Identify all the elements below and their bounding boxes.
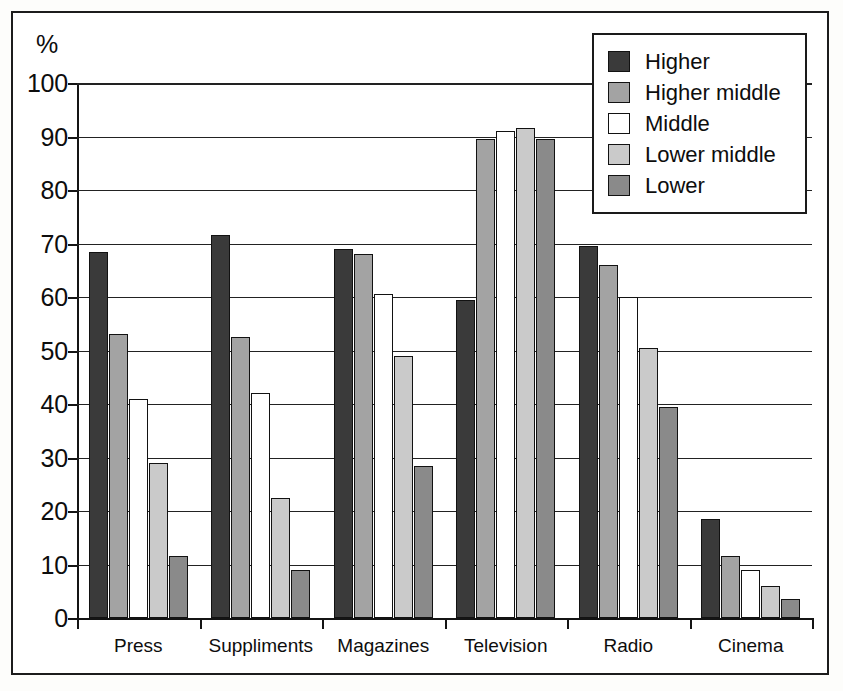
- y-tick-label-90: 90: [41, 122, 68, 151]
- y-tick-label-80: 80: [41, 176, 68, 205]
- y-tick-label-40: 40: [41, 390, 68, 419]
- bar-press-higher-middle: [109, 334, 128, 618]
- bar-press-middle: [129, 399, 148, 618]
- y-tick-mark-40: [68, 404, 77, 406]
- x-tick-mark-4: [567, 618, 569, 629]
- y-tick-label-60: 60: [41, 283, 68, 312]
- x-tick-label-magazines: Magazines: [337, 635, 429, 657]
- bar-suppliments-lower-middle: [271, 498, 290, 618]
- y-tick-mark-0: [68, 618, 77, 620]
- bar-television-lower: [536, 139, 555, 618]
- bar-suppliments-higher: [211, 235, 230, 618]
- bar-group-television: [456, 83, 555, 618]
- bar-suppliments-middle: [251, 393, 270, 618]
- bar-magazines-lower: [414, 466, 433, 618]
- bar-press-lower: [169, 556, 188, 618]
- bar-radio-higher-middle: [599, 265, 618, 618]
- y-tick-mark-70: [68, 244, 77, 246]
- x-tick-label-cinema: Cinema: [718, 635, 783, 657]
- x-tick-label-television: Television: [464, 635, 547, 657]
- bar-suppliments-higher-middle: [231, 337, 250, 618]
- bar-cinema-higher: [701, 519, 720, 618]
- y-tick-label-50: 50: [41, 336, 68, 365]
- bar-cinema-lower: [781, 599, 800, 618]
- y-tick-label-30: 30: [41, 443, 68, 472]
- x-tick-mark-2: [322, 618, 324, 629]
- bar-magazines-higher-middle: [354, 254, 373, 618]
- y-tick-mark-100: [68, 83, 77, 85]
- legend-label: Lower: [645, 173, 705, 199]
- x-tick-label-press: Press: [114, 635, 163, 657]
- bar-television-higher: [456, 300, 475, 618]
- bar-press-lower-middle: [149, 463, 168, 618]
- x-tick-mark-end: [812, 618, 814, 629]
- bar-radio-lower: [659, 407, 678, 618]
- x-tick-label-suppliments: Suppliments: [208, 635, 313, 657]
- bar-suppliments-lower: [291, 570, 310, 618]
- bar-radio-middle: [619, 297, 638, 618]
- chart-legend: HigherHigher middleMiddleLower middleLow…: [592, 33, 807, 214]
- y-tick-mark-60: [68, 297, 77, 299]
- bar-group-suppliments: [211, 83, 310, 618]
- y-tick-label-100: 100: [27, 69, 68, 98]
- legend-swatch-higher: [608, 51, 630, 72]
- y-axis-unit-label: %: [36, 30, 58, 59]
- bar-press-higher: [89, 252, 108, 618]
- legend-swatch-higher-middle: [608, 82, 630, 103]
- bar-television-middle: [496, 131, 515, 618]
- legend-item-lower-middle: Lower middle: [608, 139, 805, 170]
- legend-item-higher-middle: Higher middle: [608, 77, 805, 108]
- bar-television-higher-middle: [476, 139, 495, 618]
- bar-magazines-lower-middle: [394, 356, 413, 618]
- bar-cinema-higher-middle: [721, 556, 740, 618]
- bar-television-lower-middle: [516, 128, 535, 618]
- y-tick-mark-80: [68, 190, 77, 192]
- y-tick-label-70: 70: [41, 229, 68, 258]
- x-tick-mark-3: [445, 618, 447, 629]
- x-tick-mark-5: [690, 618, 692, 629]
- y-tick-label-10: 10: [41, 550, 68, 579]
- legend-swatch-lower: [608, 175, 630, 196]
- y-tick-label-0: 0: [54, 604, 68, 633]
- legend-swatch-middle: [608, 113, 630, 134]
- y-tick-mark-20: [68, 511, 77, 513]
- legend-item-lower: Lower: [608, 170, 805, 201]
- bar-radio-higher: [579, 246, 598, 618]
- legend-swatch-lower-middle: [608, 144, 630, 165]
- chart-figure: % 1009080706050403020100 PressSuppliment…: [0, 0, 843, 691]
- y-tick-mark-50: [68, 351, 77, 353]
- bar-cinema-lower-middle: [761, 586, 780, 618]
- bar-group-press: [89, 83, 188, 618]
- y-tick-mark-90: [68, 137, 77, 139]
- y-tick-mark-30: [68, 458, 77, 460]
- x-tick-mark-1: [200, 618, 202, 629]
- legend-item-middle: Middle: [608, 108, 805, 139]
- y-tick-mark-10: [68, 565, 77, 567]
- legend-label: Middle: [645, 111, 710, 137]
- legend-label: Higher: [645, 49, 710, 75]
- legend-item-higher: Higher: [608, 46, 805, 77]
- bar-radio-lower-middle: [639, 348, 658, 618]
- bar-cinema-middle: [741, 570, 760, 618]
- bar-group-magazines: [334, 83, 433, 618]
- x-tick-mark-0: [77, 618, 79, 629]
- y-tick-label-20: 20: [41, 497, 68, 526]
- legend-label: Higher middle: [645, 80, 781, 106]
- bar-magazines-higher: [334, 249, 353, 618]
- legend-label: Lower middle: [645, 142, 776, 168]
- x-tick-label-radio: Radio: [603, 635, 653, 657]
- bar-magazines-middle: [374, 294, 393, 618]
